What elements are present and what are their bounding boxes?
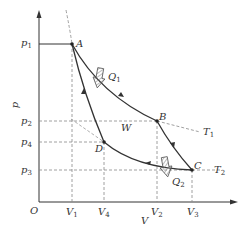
y-axis-arrow-icon: [37, 10, 42, 18]
isotherm-t2-label: T2: [214, 165, 225, 177]
label-point-D: D: [95, 144, 103, 154]
origin-label: O: [30, 206, 38, 216]
cycle: [72, 44, 192, 170]
x-tick-v3: V3: [187, 207, 199, 219]
x-tick-v1: V1: [66, 207, 78, 219]
x-tick-v4: V4: [98, 207, 110, 219]
process-C-D: [104, 142, 192, 170]
dashed-guide-curve: [66, 10, 72, 44]
x-axis-arrow-icon: [230, 200, 238, 205]
x-tick-v2: V2: [151, 207, 163, 219]
heat-in-label: Q1: [108, 72, 121, 84]
y-tick-p1: p1: [21, 38, 32, 50]
y-axis-label: p: [10, 102, 20, 108]
axes: [37, 10, 239, 205]
pv-diagram: [0, 0, 242, 230]
heat-out-label: Q2: [172, 177, 185, 189]
process-D-A: [72, 44, 104, 142]
label-point-B: B: [159, 112, 166, 122]
point-A: [70, 42, 74, 46]
y-tick-p4: p4: [21, 137, 32, 149]
y-tick-p3: p3: [21, 165, 32, 177]
isotherm-t1-label: T1: [203, 127, 214, 139]
arrow-A-B-icon: [118, 92, 124, 97]
y-tick-p2: p2: [21, 116, 32, 128]
work-label: W: [121, 123, 131, 133]
x-axis-label: V: [141, 216, 148, 226]
label-point-C: C: [194, 161, 202, 171]
label-point-A: A: [76, 39, 83, 49]
